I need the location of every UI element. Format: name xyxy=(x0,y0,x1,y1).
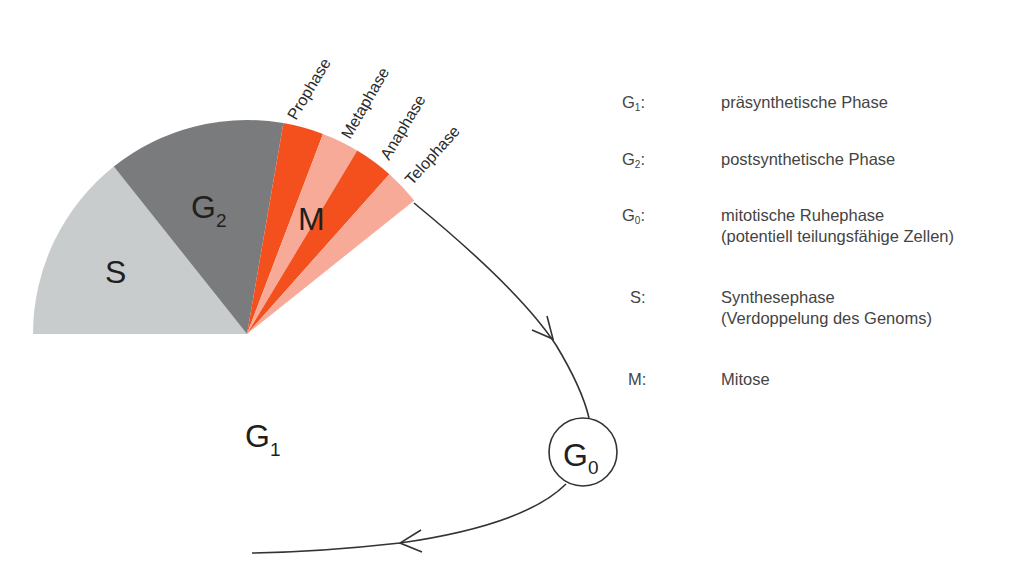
g1-label: G1 xyxy=(245,418,280,460)
cell-cycle-diagram: S G2 M Prophase Metaphase Anaphase Telop… xyxy=(0,0,1034,584)
flow-arrow-mitosis-to-g0 xyxy=(414,203,589,418)
flow-arrow-g0-to-g1 xyxy=(252,484,566,553)
phase-label-prophase: Prophase xyxy=(284,55,334,123)
slice-label-s: S xyxy=(105,254,126,290)
phase-label-telophase: Telophase xyxy=(402,122,464,188)
phase-label-metaphase: Metaphase xyxy=(338,64,392,141)
slice-label-m: M xyxy=(298,201,325,237)
phase-label-anaphase: Anaphase xyxy=(377,92,429,163)
